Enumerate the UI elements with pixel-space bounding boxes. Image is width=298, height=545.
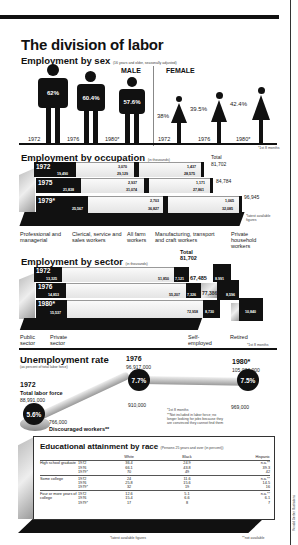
unemployment-heading: Unemployment rate [20,354,109,365]
education-bevel [18,437,34,519]
female-pct-1980: 42.4% [230,101,247,107]
female-year-1980: 1980* [236,136,250,142]
sector-value: 7,121 [175,277,184,281]
male-pct-1972: 62% [38,78,68,108]
male-year-1980: 1980* [105,136,119,142]
sector-category-public: Public sector [20,334,42,346]
male-figure-1980: 57.6% [119,77,145,144]
occupation-value: 1,437 [187,165,196,169]
education-heading-text: Educational attainment by race [40,442,158,451]
sector-value: 10,840 [245,310,256,314]
occupation-value: 32,085 [222,207,233,211]
sector-total: Total 81,702 [180,249,197,261]
occupation-total-1979: 96,945 [244,194,259,200]
occupation-value: 1,171 [196,181,205,185]
sector-bar-1976-private [66,283,186,298]
sex-divider [153,66,154,146]
sector-heading-text: Employment by sector [21,256,123,267]
male-year-1976: 1976 [67,136,79,142]
education-subheading: (Persons 25 years and over (in percent)) [161,446,224,450]
occupation-value: 3,070 [118,165,127,169]
occupation-value: 29,129 [117,172,128,176]
sector-category-self-employed: Self-employed [188,334,218,346]
sector-year-1972: 1972 [36,267,50,274]
occupation-value: 2,703 [150,199,159,203]
unemployment-line-1976-1980 [138,376,248,386]
unemployment-footnote-1: *1st 8 months [167,408,188,412]
occupation-bar-1972-household [201,162,204,177]
discouraged-1972: 766,000 [49,419,67,425]
occupation-total-1975: 84,784 [216,178,231,184]
sector-base [20,318,202,330]
occupation-bar-1975-household [210,178,213,193]
unemployment-rate-1972: 5.6% [23,403,45,425]
female-figure-1980 [252,87,271,144]
sector-subheading: (in thousands) [126,262,148,266]
occupation-category-farm: All farm workers [127,231,155,243]
unemployment-rate-1980: 7.5% [237,369,259,391]
sector-value: 15,537 [50,311,61,315]
occupation-category-manufacturing: Manufacturing, transport and craft worke… [155,231,215,243]
discouraged-1980: 969,000 [231,404,249,410]
sector-bar-1976-retired [217,280,239,300]
education-base [18,519,263,533]
occupation-bevel [19,168,35,212]
sector-category-retired: Retired [230,334,260,340]
occupation-total-1972: 81,702 [211,161,226,167]
occupation-value: 27,861 [193,188,204,192]
row-label-highschool: High school graduate [40,461,78,475]
occupation-year-1979: 1979* [38,197,55,204]
female-label: FEMALE [166,67,195,74]
male-figure-1976: 60.4% [77,71,105,144]
sector-bar-1980-private [67,300,203,318]
female-pct-1972: 38% [157,113,169,119]
labor-force-label: Total labor force [20,390,63,396]
illustration-credit: Ronald Gerber Illustrations [292,495,296,531]
occupation-value: 1,065 [225,199,234,203]
sector-subtotal-1976: 77,386 [202,290,217,296]
sex-subheading: (16 years and older, seasonally adjusted… [113,61,177,65]
occupation-value: 31,074 [126,188,137,192]
sector-value: 7,326 [187,293,196,297]
occupation-year-1972: 1972 [36,163,50,170]
sector-value: 55,207 [169,293,180,297]
discouraged-1976: 910,000 [128,402,146,408]
occupation-year-1975: 1975 [38,179,52,186]
sector-value: 14,853 [48,293,59,297]
occupation-value: 25,567 [72,207,83,211]
sector-value: 51,850 [158,277,169,281]
male-label: MALE [121,67,141,74]
occupation-value: 2,937 [128,181,137,185]
occupation-category-professional: Professional and managerial [20,231,66,243]
occupation-category-household: Private household workers [231,231,265,249]
page-title: The division of labor [21,36,163,53]
row-label-fouryears: Four or more years of college [40,490,78,505]
education-footnote-2: **not available [242,536,264,540]
sector-footnote: *1st 8 months [247,343,268,347]
occupation-value: 36,827 [148,207,159,211]
right-border [290,0,291,545]
sector-value: 72,958 [187,310,198,314]
sector-baseline [19,348,277,350]
sector-heading: Employment by sector (in thousands) [21,256,148,267]
discouraged-label: Discouraged workers** [49,426,109,432]
sector-total-value: 81,702 [180,255,197,261]
occupation-total-label: Total [211,154,222,160]
education-footnote-1: *latest available figures [110,536,146,540]
male-year-1972: 1972 [28,136,40,142]
sector-value: 8,596 [226,293,235,297]
occupation-category-clerical: Clerical, service and sales workers [72,231,126,243]
row-label-somecollege: Some college [40,475,78,490]
sector-subtotal-1972: 67,485 [190,275,207,281]
male-pct-1976: 60.4% [77,84,105,111]
occupation-bar-1979-household [239,196,242,213]
female-figure-1972 [171,96,187,144]
occupation-base [19,212,244,226]
unemployment-subheading: (as percent of total labor force) [20,365,68,369]
female-pct-1976: 39.5% [190,106,207,112]
unemployment-rate-1976: 7.7% [128,369,150,391]
occupation-value: 21,838 [63,188,74,192]
sector-year-1980: 1980* [38,300,55,307]
unemployment-year-1972: 1972 [20,381,36,388]
sector-bar-1980-retired-side [231,303,239,321]
